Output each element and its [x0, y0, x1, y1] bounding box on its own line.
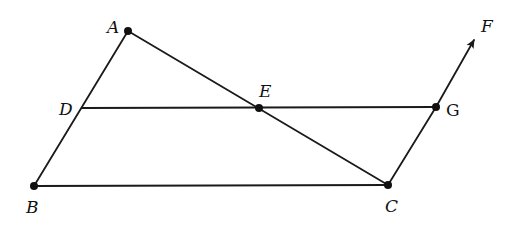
point-b-dot: [30, 182, 38, 190]
label-b: B: [25, 197, 39, 217]
label-a: A: [105, 17, 119, 37]
point-e-dot: [255, 104, 263, 112]
label-g: G: [446, 100, 460, 120]
label-c: C: [385, 196, 398, 216]
label-e: E: [258, 81, 272, 101]
point-g-dot: [432, 103, 440, 111]
label-f: F: [480, 16, 494, 36]
ray-gf: [436, 40, 474, 107]
segment-cg: [388, 107, 436, 185]
point-a-dot: [124, 27, 132, 35]
geometry-diagram: A D B E G C F: [0, 0, 515, 225]
segment-bc: [34, 185, 388, 186]
label-d: D: [58, 99, 73, 119]
point-c-dot: [384, 181, 392, 189]
